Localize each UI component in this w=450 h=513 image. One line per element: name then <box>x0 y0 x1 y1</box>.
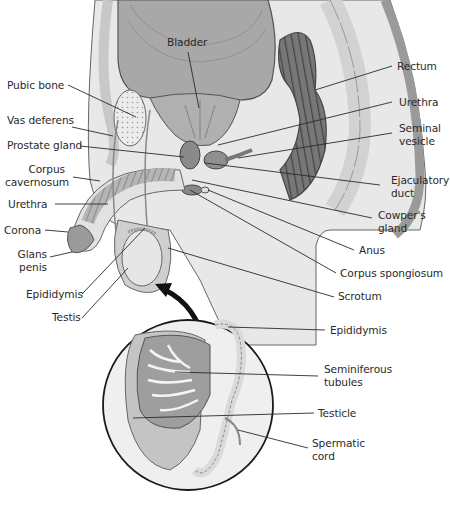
label-glans-penis-line2: penis <box>19 261 47 273</box>
label-testicle: Testicle <box>318 407 356 420</box>
label-pubic-bone: Pubic bone <box>7 79 64 92</box>
label-seminiferous-tubules: Seminiferous tubules <box>324 363 392 388</box>
label-spermatic-cord-line1: Spermatic <box>312 437 365 449</box>
label-urethra-left: Urethra <box>8 198 47 211</box>
label-seminiferous-tubules-line1: Seminiferous <box>324 363 392 375</box>
label-glans-penis: Glans penis <box>5 248 47 273</box>
label-vas-deferens: Vas deferens <box>7 114 74 127</box>
label-seminal-vesicle-line1: Seminal <box>399 122 441 134</box>
label-prostate-gland: Prostate gland <box>7 139 82 152</box>
label-cowpers-gland: Cowper's gland <box>378 209 426 234</box>
label-bladder: Bladder <box>167 36 207 49</box>
label-rectum: Rectum <box>397 60 437 73</box>
label-ejaculatory-duct: Ejaculatory duct <box>391 174 449 199</box>
label-scrotum: Scrotum <box>338 290 382 303</box>
label-inset-epididymis: Epididymis <box>330 324 387 337</box>
label-anus: Anus <box>359 244 385 257</box>
inset-magnified-testicle <box>103 320 273 490</box>
label-corpus-cavernosum-line2: cavernosum <box>5 176 69 188</box>
label-epididymis-left: Epididymis <box>26 288 83 301</box>
pubic-bone-shape <box>114 90 146 146</box>
label-glans-penis-line1: Glans <box>18 248 47 260</box>
label-spermatic-cord: Spermatic cord <box>312 437 365 462</box>
label-urethra-right: Urethra <box>399 96 438 109</box>
label-cowpers-gland-line2: gland <box>378 222 407 234</box>
label-cowpers-gland-line1: Cowper's <box>378 209 426 221</box>
label-corpus-cavernosum: Corpus cavernosum <box>5 163 65 188</box>
anatomy-illustration <box>0 0 450 513</box>
label-ejaculatory-duct-line2: duct <box>391 187 414 199</box>
label-corona: Corona <box>4 224 41 237</box>
label-testis: Testis <box>52 311 81 324</box>
label-ejaculatory-duct-line1: Ejaculatory <box>391 174 449 186</box>
label-spermatic-cord-line2: cord <box>312 450 335 462</box>
label-seminiferous-tubules-line2: tubules <box>324 376 363 388</box>
label-corpus-spongiosum: Corpus spongiosum <box>340 267 443 280</box>
label-seminal-vesicle-line2: vesicle <box>399 135 435 147</box>
label-seminal-vesicle: Seminal vesicle <box>399 122 441 147</box>
label-corpus-cavernosum-line1: Corpus <box>28 163 65 175</box>
